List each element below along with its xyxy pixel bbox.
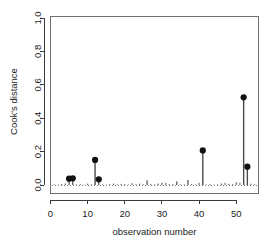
x-axis-tick-label: 10 xyxy=(82,208,93,219)
data-point-marker xyxy=(244,164,250,170)
y-axis-tick-label: 0.8 xyxy=(32,45,43,58)
y-axis-tick-label: 0.2 xyxy=(32,145,43,158)
plot-canvas: 0.00.20.40.60.81.0Cook's distance0102030… xyxy=(0,0,275,242)
data-point-marker xyxy=(70,175,76,181)
y-axis-tick-label: 1.0 xyxy=(32,11,43,24)
plot-frame xyxy=(51,17,259,194)
cooks-distance-figure: 0.00.20.40.60.81.0Cook's distance0102030… xyxy=(0,0,275,242)
data-point-marker xyxy=(241,94,247,100)
x-axis-tick-label: 0 xyxy=(48,208,53,219)
y-axis-tick-label: 0.6 xyxy=(32,78,43,91)
x-axis-title: observation number xyxy=(113,226,197,237)
x-axis-tick-label: 30 xyxy=(157,208,168,219)
data-point-marker xyxy=(96,176,102,182)
data-point-marker xyxy=(92,157,98,163)
x-axis-tick-label: 40 xyxy=(194,208,205,219)
x-axis-tick-label: 50 xyxy=(231,208,242,219)
y-axis-title: Cook's distance xyxy=(8,68,19,135)
x-axis-tick-label: 20 xyxy=(119,208,130,219)
data-point-marker xyxy=(200,147,206,153)
y-axis-tick-label: 0.0 xyxy=(32,178,43,191)
y-axis-tick-label: 0.4 xyxy=(32,112,43,125)
